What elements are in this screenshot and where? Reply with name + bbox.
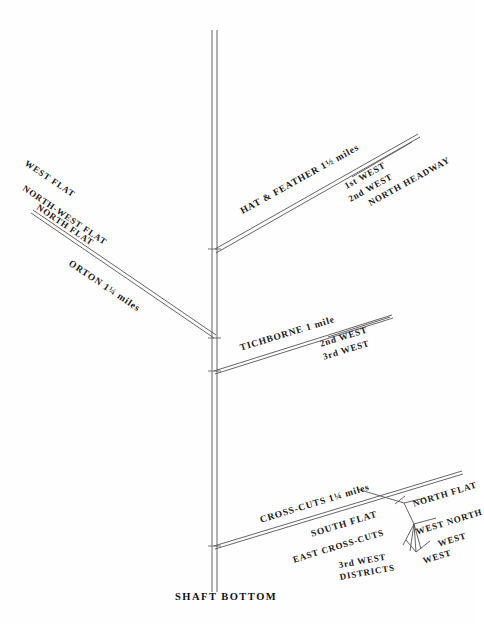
cross-cuts-branch-line (214, 471, 463, 549)
orton-branch-line (31, 210, 216, 338)
shaft-junction-ticks (208, 249, 221, 546)
shaft-bottom-label: SHAFT BOTTOM (175, 591, 277, 602)
main-shaft-line (212, 30, 217, 592)
